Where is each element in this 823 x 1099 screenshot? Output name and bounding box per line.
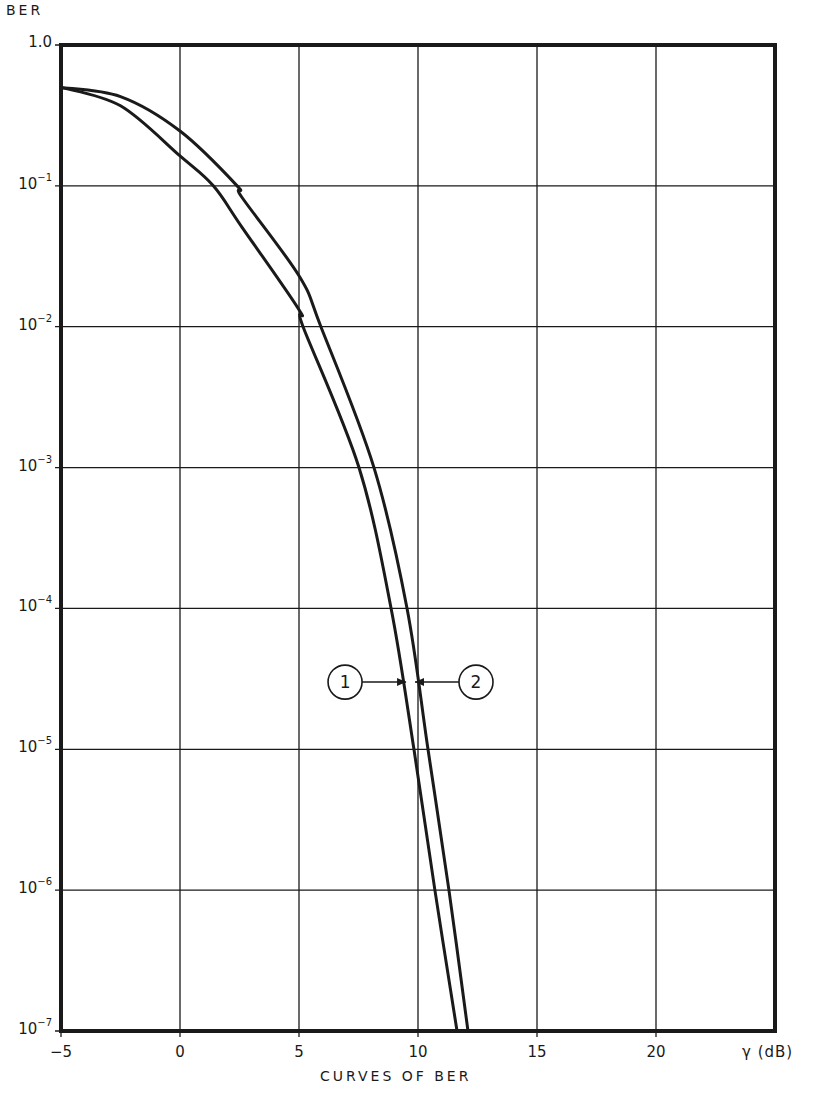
curve-annotations: 12 bbox=[328, 665, 493, 699]
annotation-1: 1 bbox=[328, 665, 406, 699]
grid-lines bbox=[55, 45, 775, 1037]
ber-curves bbox=[61, 87, 468, 1031]
annotation-label: 1 bbox=[340, 672, 351, 692]
ber-curve-2 bbox=[61, 87, 468, 1031]
annotation-label: 2 bbox=[471, 672, 482, 692]
annotation-2: 2 bbox=[415, 665, 493, 699]
ber-chart: 12 bbox=[0, 0, 823, 1099]
